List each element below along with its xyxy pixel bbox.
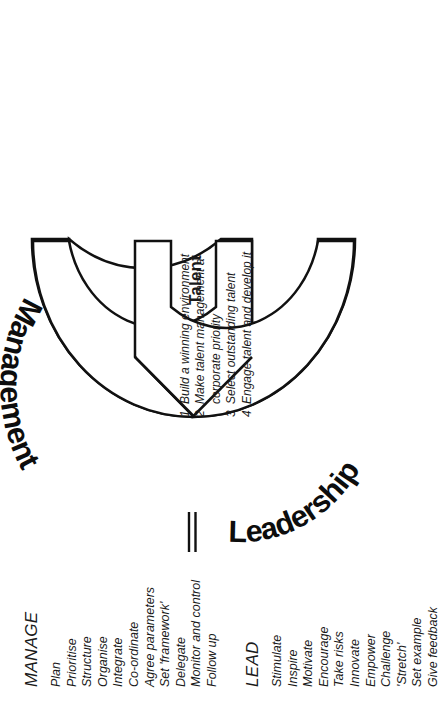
lead-item: Stimulate bbox=[270, 607, 286, 687]
numbered-step: 4 Engage talent and develop it bbox=[240, 252, 255, 417]
band-divider bbox=[190, 512, 196, 552]
manage-item: Agree parameters bbox=[143, 580, 159, 687]
step-number: 3 bbox=[224, 404, 239, 417]
lead-item: Encourage bbox=[317, 607, 333, 687]
lead-item: Innovate bbox=[348, 607, 364, 687]
manage-column: MANAGE Plan Prioritise Structure Organis… bbox=[22, 580, 221, 687]
manage-item: Delegate bbox=[174, 580, 190, 687]
manage-item: Monitor and control bbox=[189, 580, 205, 687]
step-number: 4 bbox=[240, 404, 255, 417]
step-number: 2 bbox=[193, 404, 208, 417]
step-text: Select outstanding talent bbox=[224, 273, 239, 404]
manage-item: Plan bbox=[49, 580, 65, 687]
lead-item: Give feedback bbox=[426, 607, 442, 687]
lead-column: LEAD Stimulate Inspire Motivate Encourag… bbox=[243, 607, 442, 687]
manage-item: Organise bbox=[96, 580, 112, 687]
lead-item-list: Stimulate Inspire Motivate Encourage Tak… bbox=[270, 607, 442, 687]
manage-heading: MANAGE bbox=[22, 580, 42, 687]
talent-label: Talent bbox=[186, 255, 206, 305]
manage-item-list: Plan Prioritise Structure Organise Integ… bbox=[49, 580, 221, 687]
manage-item: Integrate bbox=[111, 580, 127, 687]
band-label-leadership: Leadership bbox=[228, 454, 366, 548]
step-text-wrap: corporate priority bbox=[209, 314, 224, 404]
manage-item: Prioritise bbox=[65, 580, 81, 687]
lead-item: 'Stretch' bbox=[395, 607, 411, 687]
numbered-step-continuation: corporate priority bbox=[209, 252, 224, 417]
lead-heading: LEAD bbox=[243, 607, 263, 687]
lead-item: Take risks bbox=[332, 607, 348, 687]
numbered-step: 3 Select outstanding talent bbox=[224, 252, 239, 417]
band-label-management: Management bbox=[0, 294, 50, 474]
lead-item: Set example bbox=[410, 607, 426, 687]
manage-item: Set 'framework' bbox=[158, 580, 174, 687]
manage-item: Structure bbox=[80, 580, 96, 687]
lead-item: Inspire bbox=[286, 607, 302, 687]
manage-item: Follow up bbox=[205, 580, 221, 687]
lead-item: Empower bbox=[364, 607, 380, 687]
lead-item: Challenge bbox=[379, 607, 395, 687]
step-number: 1 bbox=[178, 404, 193, 417]
step-text: Engage talent and develop it bbox=[240, 252, 255, 404]
lead-item: Motivate bbox=[301, 607, 317, 687]
manage-item: Co-ordinate bbox=[127, 580, 143, 687]
